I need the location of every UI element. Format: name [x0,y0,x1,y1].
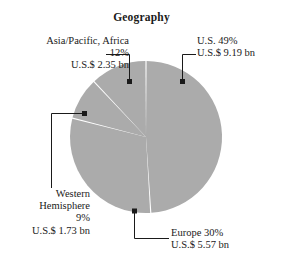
callout-asia-pacific-africa-percent: 12% [11,47,129,59]
callout-asia-pacific-africa-amount: U.S.$ 2.35 bn [11,59,129,71]
callout-europe-percent: Europe 30% [171,227,229,239]
callout-asia-pacific-africa: Asia/Pacific, Africa 12% U.S.$ 2.35 bn [11,35,129,72]
callout-us-percent: U.S. 49% [197,35,255,47]
leader-dot-us [180,79,185,84]
leader-dot-western-hemisphere [82,111,87,116]
callout-europe: Europe 30% U.S.$ 5.57 bn [171,227,229,251]
callout-europe-amount: U.S.$ 5.57 bn [171,239,229,251]
callout-us: U.S. 49% U.S.$ 9.19 bn [197,35,255,59]
leader-line-europe [132,209,169,239]
leader-dot-europe [132,209,137,214]
callout-us-amount: U.S.$ 9.19 bn [197,47,255,59]
chart-figure: Geography Asia/P [0,0,283,267]
callout-western-hemisphere-percent: 9% [8,212,90,224]
callout-western-hemisphere-amount: U.S.$ 1.73 bn [8,225,90,237]
leader-dot-asia-pacific-africa [127,79,132,84]
callout-western-hemisphere: Western Hemisphere 9% U.S.$ 1.73 bn [8,188,90,237]
callout-western-hemisphere-name-line1: Western [8,188,90,200]
callout-asia-pacific-africa-name: Asia/Pacific, Africa [11,35,129,47]
callout-western-hemisphere-name-line2: Hemisphere [8,200,90,212]
